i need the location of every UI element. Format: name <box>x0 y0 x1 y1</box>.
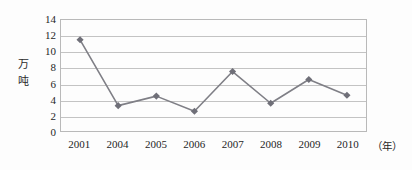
y-axis-tick-labels: 02468101214 <box>34 0 56 170</box>
y-axis-tick-0: 0 <box>34 127 56 138</box>
y-axis-tick-10: 10 <box>34 46 56 57</box>
x-axis-tick-2005: 2005 <box>145 138 167 150</box>
y-axis-tick-14: 14 <box>34 14 56 25</box>
y-axis-tick-4: 4 <box>34 94 56 105</box>
x-axis-tick-2007: 2007 <box>222 138 244 150</box>
data-point-2010 <box>343 92 350 99</box>
y-axis-tick-12: 12 <box>34 30 56 41</box>
y-axis-title-char-1: 万 <box>14 56 32 73</box>
series-line-2001-2010 <box>61 20 366 131</box>
x-axis-tick-2009: 2009 <box>298 138 320 150</box>
line-chart: 万 吨 02468101214 200120042005200620072008… <box>0 0 412 170</box>
y-axis-title-char-2: 吨 <box>14 73 32 90</box>
data-point-2001 <box>76 36 83 43</box>
x-axis-tick-2004: 2004 <box>107 138 129 150</box>
x-axis-tick-2008: 2008 <box>260 138 282 150</box>
data-point-2005 <box>153 93 160 100</box>
plot-area <box>60 19 367 132</box>
x-axis-tick-2010: 2010 <box>337 138 359 150</box>
x-axis-tick-2006: 2006 <box>183 138 205 150</box>
y-axis-title: 万 吨 <box>14 56 32 90</box>
series-polyline <box>80 40 347 111</box>
y-axis-tick-8: 8 <box>34 62 56 73</box>
y-axis-tick-2: 2 <box>34 110 56 121</box>
x-axis-tick-2001: 2001 <box>68 138 90 150</box>
data-point-2004 <box>115 102 122 109</box>
x-axis-tick-labels: 20012004200520062007200820092010 <box>60 138 367 158</box>
y-axis-tick-6: 6 <box>34 78 56 89</box>
x-axis-unit-label: （年） <box>372 138 402 153</box>
